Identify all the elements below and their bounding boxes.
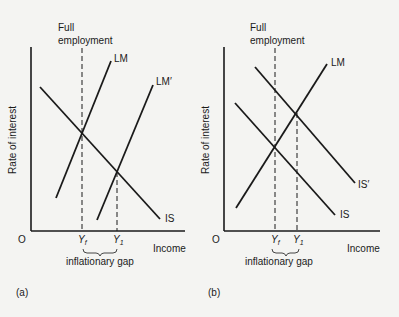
origin-label: O xyxy=(212,234,220,245)
panel-b: Full employment Rate of interest LM IS′ … xyxy=(200,22,380,298)
gap-label: inflationary gap xyxy=(66,256,134,267)
panel-label: (a) xyxy=(16,287,28,298)
lm-curve xyxy=(56,61,111,198)
panel-label: (b) xyxy=(208,287,220,298)
is-prime-curve xyxy=(255,67,355,183)
y1-label: Y1 xyxy=(113,234,124,246)
full-employment-label-2: employment xyxy=(58,35,113,46)
x-axis-label: Income xyxy=(347,243,380,254)
is-curve xyxy=(40,87,160,219)
gap-brace xyxy=(272,249,299,256)
lm-label: LM xyxy=(331,57,345,68)
is-prime-label: IS′ xyxy=(358,179,369,190)
full-employment-label-2: employment xyxy=(250,35,305,46)
islm-diagram: Full employment Rate of interest LM LM′ … xyxy=(0,0,399,317)
yf-label: Yf xyxy=(271,234,281,246)
lm-prime-curve xyxy=(97,85,153,220)
lm-label: LM xyxy=(114,53,128,64)
gap-brace xyxy=(83,249,117,256)
y-axis-label: Rate of interest xyxy=(200,106,211,174)
origin-label: O xyxy=(18,234,26,245)
gap-label: inflationary gap xyxy=(245,256,313,267)
x-axis-label-visible: Income xyxy=(153,243,186,254)
is-label: IS xyxy=(340,209,350,220)
full-employment-label-1: Full xyxy=(58,22,74,33)
panel-a: Full employment Rate of interest LM LM′ … xyxy=(7,22,186,298)
full-employment-label-1: Full xyxy=(250,22,266,33)
is-curve xyxy=(235,103,335,215)
y-axis-label: Rate of interest xyxy=(7,106,18,174)
is-label: IS xyxy=(165,213,175,224)
lm-prime-label: LM′ xyxy=(156,76,172,87)
y1-label: Y1 xyxy=(293,234,304,246)
yf-label: Yf xyxy=(78,234,88,246)
